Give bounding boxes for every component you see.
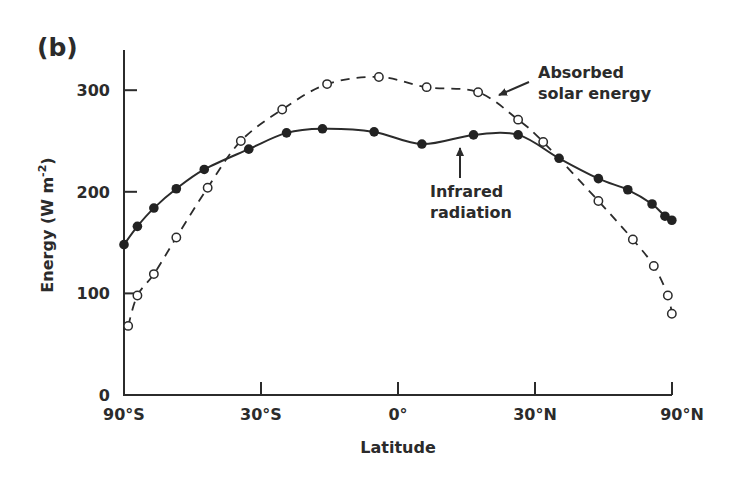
y-tick-label: 100 [77, 284, 110, 303]
energy-balance-chart: (b) 0100200300 90°S30°S0°30°N90°N Latitu… [0, 0, 734, 484]
infrared-data-point [417, 139, 427, 149]
solar-data-point [375, 73, 383, 81]
solar-data-point [323, 80, 331, 88]
solar-data-point [650, 262, 658, 270]
annotation-solar-line1: Absorbed [538, 63, 624, 82]
solar-data-point [664, 291, 672, 299]
infrared-data-point [119, 240, 129, 250]
solar-data-point [594, 197, 602, 205]
infrared-data-point [513, 130, 523, 140]
y-tick-label: 200 [77, 183, 110, 202]
annotation-absorbed-solar: Absorbed solar energy [499, 63, 652, 103]
infrared-data-point [133, 222, 143, 232]
solar-data-point [278, 105, 286, 113]
infrared-data-point [172, 184, 182, 194]
infrared-data-point [647, 199, 657, 209]
solar-line [128, 77, 672, 326]
annotation-ir-line1: Infrared [430, 182, 503, 201]
infrared-data-point [667, 215, 677, 225]
annotation-solar-line2: solar energy [538, 84, 652, 103]
solar-data-point [629, 235, 637, 243]
infrared-data-point [282, 128, 292, 138]
infrared-data-point [623, 185, 633, 195]
panel-label: (b) [37, 33, 78, 62]
infrared-data-point [594, 174, 604, 184]
y-axis-title-close: ) [38, 157, 57, 164]
annotation-ir-line2: radiation [430, 203, 512, 222]
solar-data-point [172, 233, 180, 241]
infrared-data-point [554, 153, 564, 163]
x-tick-label: 30°S [240, 405, 282, 424]
infrared-data-point [244, 144, 254, 154]
x-ticks: 90°S30°S0°30°N90°N [103, 382, 704, 424]
infrared-data-point [318, 124, 328, 134]
x-tick-label: 0° [388, 405, 407, 424]
y-axis-title: Energy (W m-2) [36, 157, 57, 292]
solar-data-point [124, 322, 132, 330]
solar-data-point [150, 270, 158, 278]
y-axis-title-superscript: -2 [36, 165, 49, 177]
series-infrared-radiation [119, 124, 676, 249]
solar-data-point [514, 115, 522, 123]
solar-data-point [474, 88, 482, 96]
annotation-infrared: Infrared radiation [430, 148, 512, 222]
infrared-data-point [369, 127, 379, 137]
x-tick-label: 90°S [103, 405, 145, 424]
x-tick-label: 90°N [660, 405, 704, 424]
x-axis-title: Latitude [360, 438, 436, 457]
solar-data-point [539, 138, 547, 146]
solar-data-point [133, 291, 141, 299]
arrow-icon [499, 82, 529, 95]
infrared-data-point [199, 165, 209, 175]
solar-data-point [668, 310, 676, 318]
y-axis-title-base: Energy (W m [38, 177, 57, 293]
solar-data-point [203, 184, 211, 192]
y-tick-label: 300 [77, 81, 110, 100]
solar-data-point [422, 83, 430, 91]
x-tick-label: 30°N [513, 405, 557, 424]
series-absorbed-solar-energy [124, 73, 676, 330]
infrared-data-point [469, 130, 479, 140]
y-tick-label: 0 [99, 386, 110, 405]
solar-data-point [237, 137, 245, 145]
infrared-data-point [149, 203, 159, 213]
